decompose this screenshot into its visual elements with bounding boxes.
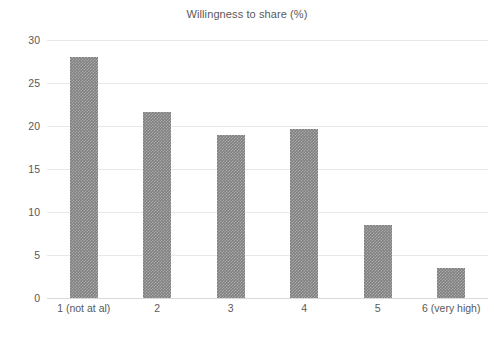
y-tick-label: 30 (0, 35, 40, 46)
plot-area (47, 40, 488, 298)
bar-slot (341, 40, 415, 298)
y-tick-label: 0 (0, 293, 40, 304)
bar[interactable] (217, 135, 245, 298)
y-tick-label: 15 (0, 164, 40, 175)
bar-slot (47, 40, 121, 298)
chart-title: Willingness to share (%) (0, 8, 494, 20)
y-axis: 051015202530 (0, 40, 40, 298)
x-tick-label: 1 (not at al) (57, 302, 110, 315)
bar[interactable] (437, 268, 465, 298)
bar-slot (415, 40, 489, 298)
axis-baseline (47, 298, 488, 299)
bar[interactable] (364, 225, 392, 298)
x-tick-label: 4 (301, 302, 307, 315)
y-tick-label: 25 (0, 78, 40, 89)
y-tick-label: 20 (0, 121, 40, 132)
bar[interactable] (70, 57, 98, 298)
x-tick-label: 2 (154, 302, 160, 315)
bar-slot (194, 40, 268, 298)
x-axis: 1 (not at al)23456 (very high) (47, 302, 488, 322)
y-tick-label: 10 (0, 207, 40, 218)
x-tick-label: 6 (very high) (422, 302, 480, 315)
bar-slot (121, 40, 195, 298)
x-tick-label: 3 (228, 302, 234, 315)
bar[interactable] (290, 129, 318, 298)
bar[interactable] (143, 112, 171, 298)
bar-chart: Willingness to share (%) 051015202530 1 … (0, 0, 494, 337)
bar-slot (268, 40, 342, 298)
y-tick-label: 5 (0, 250, 40, 261)
x-tick-label: 5 (375, 302, 381, 315)
